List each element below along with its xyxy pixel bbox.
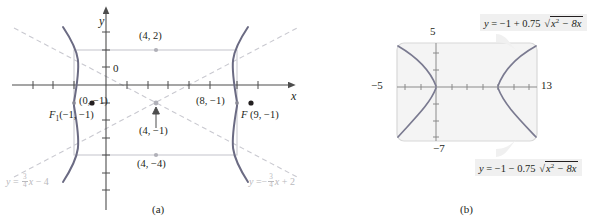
marker-focus-right bbox=[248, 100, 253, 105]
lower-branch-equation: y = −1 − 0.75 √x2 − 8x bbox=[475, 159, 582, 176]
asymptote-intercept-positive: − 4 bbox=[36, 176, 49, 187]
x-axis-label: x bbox=[291, 90, 296, 102]
origin-label: 0 bbox=[113, 63, 119, 74]
focus-right-symbol: F bbox=[241, 109, 247, 120]
marker-vertex-right bbox=[235, 101, 239, 105]
point-label-center: (4, −1) bbox=[139, 126, 168, 137]
point-label-vertex-left: (0, −1) bbox=[79, 96, 108, 107]
calculator-screen bbox=[397, 43, 537, 141]
panel-b: 5 −7 −5 13 y = −1 + 0.75 √x2 − 8x y = −1… bbox=[320, 0, 605, 221]
window-label-ymax: 5 bbox=[430, 26, 436, 37]
focus-left-coords: (−1, −1) bbox=[59, 109, 94, 120]
asymptote-sign-negative: − bbox=[262, 176, 268, 187]
panel-a-caption: (a) bbox=[152, 203, 164, 215]
asymptote-slope-fraction-negative: 3 4 bbox=[268, 174, 274, 190]
panel-b-caption: (b) bbox=[460, 203, 473, 215]
point-label-vertex-right: (8, −1) bbox=[196, 96, 225, 107]
asymptote-intercept-negative: + 2 bbox=[282, 176, 295, 187]
marker-center-4-neg1 bbox=[154, 101, 159, 106]
panel-a: y x 0 (4, 2) (4, −1) (4, −4) (0, −1) (8,… bbox=[0, 0, 320, 221]
panel-b-graph bbox=[320, 0, 605, 221]
hyperbola-left-branch bbox=[63, 27, 78, 182]
asymptote-label-negative: y =− 3 4 x + 2 bbox=[249, 174, 295, 190]
point-label-4-2: (4, 2) bbox=[139, 31, 162, 42]
window-label-xmax: 13 bbox=[541, 80, 552, 91]
sqrt-lower: √x2 − 8x bbox=[538, 161, 578, 174]
callout-lower bbox=[496, 140, 516, 157]
y-axis-label: y bbox=[99, 15, 104, 27]
figure-container: y x 0 (4, 2) (4, −1) (4, −4) (0, −1) (8,… bbox=[0, 0, 605, 221]
focus-right-coords: (9, −1) bbox=[250, 109, 279, 120]
marker-point-4-neg4 bbox=[154, 153, 158, 157]
asymptote-slope-fraction-positive: 3 4 bbox=[22, 174, 28, 190]
point-label-4-neg4: (4, −4) bbox=[137, 159, 166, 170]
upper-branch-equation: y = −1 + 0.75 √x2 − 8x bbox=[480, 14, 587, 31]
marker-vertex-left bbox=[72, 101, 76, 105]
focus-right-label: F (9, −1) bbox=[241, 110, 279, 121]
asymptote-label-positive: y = 3 4 x − 4 bbox=[6, 174, 49, 190]
window-label-ymin: −7 bbox=[433, 143, 445, 154]
window-label-xmin: −5 bbox=[371, 80, 383, 91]
marker-point-4-2 bbox=[154, 48, 158, 52]
focus-left-label: F1(−1, −1) bbox=[49, 110, 94, 123]
hyperbola-right-branch bbox=[233, 27, 248, 182]
sqrt-upper: √x2 − 8x bbox=[543, 16, 583, 29]
